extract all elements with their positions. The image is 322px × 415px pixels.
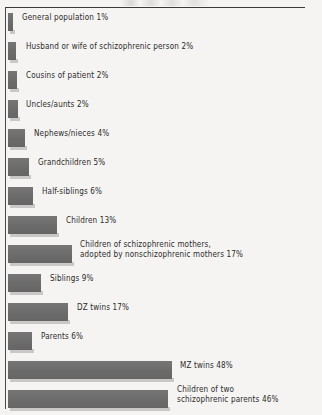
- bar-label-6: Half-siblings 6%: [42, 186, 102, 196]
- bar-4: [8, 129, 25, 147]
- bar-3: [8, 100, 18, 118]
- bar-0: [8, 13, 13, 31]
- bar-10: [8, 303, 68, 321]
- bar-8: [8, 245, 72, 263]
- bar-group: [8, 216, 57, 234]
- bar-label-2: Cousins of patient 2%: [26, 70, 108, 80]
- bar-label-9: Siblings 9%: [50, 273, 94, 283]
- bar-group: [8, 187, 33, 205]
- bar-group: [8, 13, 13, 31]
- bar-label-5: Grandchildren 5%: [38, 157, 105, 167]
- bar-9: [8, 274, 41, 292]
- bar-label-0: General population 1%: [22, 12, 108, 22]
- bar-group: [8, 42, 16, 60]
- bar-group: [8, 158, 29, 176]
- chart-plot-area: General population 1%Husband or wife of …: [0, 9, 322, 413]
- bar-7: [8, 216, 57, 234]
- bar-label-4: Nephews/nieces 4%: [34, 128, 109, 138]
- chart-top-rule: [5, 7, 305, 8]
- bar-label-7: Children 13%: [66, 215, 116, 225]
- bar-group: [8, 303, 68, 321]
- bar-label-12: MZ twins 48%: [180, 360, 233, 370]
- bar-group: [8, 274, 41, 292]
- bar-2: [8, 71, 17, 89]
- bar-label-3: Uncles/aunts 2%: [26, 99, 89, 109]
- bar-5: [8, 158, 29, 176]
- bar-label-1: Husband or wife of schizophrenic person …: [26, 41, 193, 51]
- bar-group: [8, 390, 168, 408]
- bar-label-8: Children of schizophrenic mothers, adopt…: [80, 239, 243, 260]
- bar-label-13: Children of two schizophrenic parents 46…: [177, 384, 278, 405]
- bar-group: [8, 245, 72, 263]
- bar-label-11: Parents 6%: [41, 331, 83, 341]
- bar-11: [8, 332, 32, 350]
- bar-12: [8, 361, 172, 379]
- page-bleed-artifact: [120, 0, 210, 6]
- bar-group: [8, 100, 18, 118]
- bar-group: [8, 332, 32, 350]
- bar-group: [8, 129, 25, 147]
- bar-label-10: DZ twins 17%: [77, 302, 129, 312]
- bar-1: [8, 42, 16, 60]
- bar-group: [8, 361, 172, 379]
- schizophrenia-risk-bar-chart: General population 1%Husband or wife of …: [0, 0, 322, 415]
- bar-13: [8, 390, 168, 408]
- bar-group: [8, 71, 17, 89]
- bar-6: [8, 187, 33, 205]
